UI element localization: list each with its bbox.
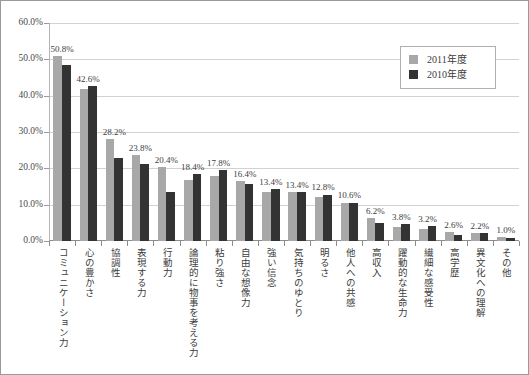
bar-group <box>206 23 232 241</box>
bar-2010 <box>114 158 123 241</box>
x-axis-category-label: 行動力 <box>162 248 173 278</box>
bar-group <box>153 23 179 241</box>
bar-2011 <box>262 192 271 241</box>
bar-2011 <box>210 176 219 241</box>
legend-item-2011: 2011年度 <box>409 52 489 67</box>
x-axis-tick-mark <box>284 241 285 246</box>
x-axis-tick-mark <box>493 241 494 246</box>
x-axis-category-label: 高学歴 <box>449 248 460 278</box>
legend-label-2010: 2010年度 <box>427 70 467 80</box>
bar-group <box>127 23 153 241</box>
bar-chart: 0.0%10.0%20.0%30.0%40.0%50.0%60.0% 50.8%… <box>0 0 529 375</box>
bar-2010 <box>297 192 306 241</box>
bar-2011 <box>132 155 141 241</box>
bar-2010 <box>506 238 515 241</box>
x-axis-tick-mark <box>310 241 311 246</box>
bar-2010 <box>219 170 228 241</box>
bar-group <box>232 23 258 241</box>
bar-2011 <box>106 139 115 241</box>
x-axis-tick-mark <box>362 241 363 246</box>
x-axis-tick-mark <box>49 241 50 246</box>
bar-2011 <box>158 167 167 241</box>
x-axis-category-label: 他人への共感 <box>344 248 355 308</box>
x-axis-tick-mark <box>232 241 233 246</box>
legend: 2011年度 2010年度 <box>400 46 496 89</box>
x-axis-tick-mark <box>153 241 154 246</box>
bar-group <box>180 23 206 241</box>
legend-item-2010: 2010年度 <box>409 67 489 82</box>
bar-2010 <box>140 164 149 241</box>
x-axis-tick-mark <box>258 241 259 246</box>
bar-2011 <box>80 89 89 241</box>
y-axis-tick-label: 50.0% <box>0 54 43 64</box>
bar-group <box>284 23 310 241</box>
legend-swatch-2011 <box>409 55 418 64</box>
x-axis-tick-mark <box>101 241 102 246</box>
x-axis-category-label: 表現する力 <box>135 248 146 298</box>
bar-2010 <box>193 174 202 241</box>
y-axis-tick-label: 20.0% <box>0 163 43 173</box>
x-axis-category-label: 強い信念 <box>266 248 277 288</box>
x-axis-category-label: コミュニケーション力 <box>57 248 68 348</box>
data-label: 1.0% <box>487 226 525 235</box>
x-axis-category-label: 気持ちのゆとり <box>292 248 303 318</box>
bar-2011 <box>53 56 62 241</box>
y-axis-tick-label: 10.0% <box>0 200 43 210</box>
x-axis-category-label: 論理的に物事を考える力 <box>188 248 199 358</box>
bar-group <box>310 23 336 241</box>
x-axis-tick-mark <box>388 241 389 246</box>
bar-2011 <box>367 218 376 241</box>
x-axis-tick-mark <box>467 241 468 246</box>
bar-2011 <box>341 203 350 242</box>
x-axis-category-label: その他 <box>501 248 512 278</box>
bar-2011 <box>236 181 245 241</box>
bar-2010 <box>166 192 175 241</box>
legend-swatch-2010 <box>409 70 418 79</box>
x-axis-category-label: 明るさ <box>318 248 329 278</box>
bar-2011 <box>419 229 428 241</box>
bar-2010 <box>375 223 384 241</box>
bar-2011 <box>393 227 402 241</box>
x-axis-tick-mark <box>180 241 181 246</box>
x-axis-tick-mark <box>336 241 337 246</box>
y-axis-tick-label: 30.0% <box>0 127 43 137</box>
bar-group <box>493 23 519 241</box>
x-axis-category-label: 躍動的な生命力 <box>397 248 408 318</box>
bar-2010 <box>454 235 463 241</box>
x-axis-tick-mark <box>415 241 416 246</box>
legend-label-2011: 2011年度 <box>427 55 467 65</box>
bar-2011 <box>445 232 454 241</box>
y-axis-tick-label: 60.0% <box>0 18 43 28</box>
bar-group <box>258 23 284 241</box>
x-axis-tick-mark <box>127 241 128 246</box>
bar-2010 <box>323 195 332 242</box>
bar-2010 <box>401 224 410 241</box>
x-axis-category-label: 異文化への理解 <box>475 248 486 318</box>
bar-2010 <box>271 189 280 241</box>
x-axis-category-label: 繊細な感受性 <box>423 248 434 308</box>
x-axis-category-label: 自由な想像力 <box>240 248 251 308</box>
x-axis-tick-mark <box>206 241 207 246</box>
x-axis-category-label: 心の豊かさ <box>83 248 94 298</box>
bar-group <box>49 23 75 241</box>
bar-2011 <box>471 233 480 241</box>
y-axis-tick-label: 0.0% <box>0 236 43 246</box>
bar-2011 <box>315 197 324 241</box>
x-axis-tick-mark <box>519 241 520 246</box>
x-axis-tick-mark <box>75 241 76 246</box>
bar-2010 <box>62 65 71 241</box>
x-axis-category-label: 高収入 <box>370 248 381 278</box>
bar-2010 <box>245 184 254 241</box>
bar-2010 <box>88 86 97 241</box>
bar-2011 <box>288 192 297 241</box>
bar-2011 <box>184 180 193 241</box>
x-axis-category-label: 協調性 <box>109 248 120 278</box>
x-axis-category-label: 粘り強さ <box>214 248 225 288</box>
y-axis-tick-label: 40.0% <box>0 91 43 101</box>
x-axis-tick-mark <box>441 241 442 246</box>
bar-2011 <box>497 237 506 241</box>
